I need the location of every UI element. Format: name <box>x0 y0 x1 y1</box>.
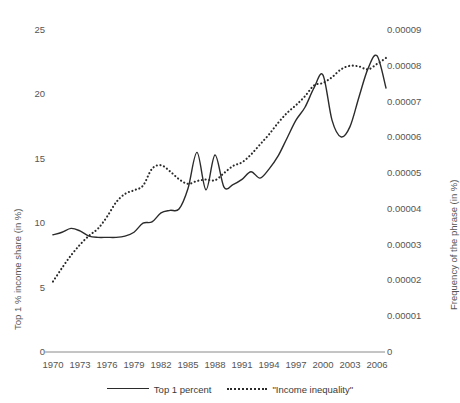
series-line-top-1-percent <box>53 55 386 237</box>
plot-area <box>0 0 460 403</box>
legend-label-income-inequality: "Income inequality" <box>272 384 353 395</box>
legend-swatch-dotted-line <box>225 384 267 394</box>
chart-legend: Top 1 percent "Income inequality" <box>0 379 460 399</box>
legend-item-top-1-percent: Top 1 percent <box>107 384 212 395</box>
chart-figure: 0510152025 00.000010.000020.000030.00004… <box>0 0 460 403</box>
legend-item-income-inequality: "Income inequality" <box>225 384 353 395</box>
legend-label-top-1-percent: Top 1 percent <box>154 384 212 395</box>
legend-swatch-solid-line <box>107 384 149 394</box>
